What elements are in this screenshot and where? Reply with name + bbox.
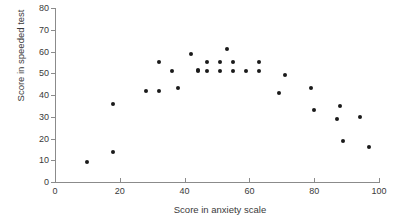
data-point (189, 52, 193, 56)
x-tick (314, 178, 315, 183)
y-tick (51, 117, 56, 118)
data-point (277, 91, 281, 95)
data-point (231, 69, 235, 73)
y-tick-label: 80 (39, 3, 49, 13)
data-point (312, 108, 316, 112)
y-tick-label: 40 (39, 90, 49, 100)
data-point (196, 69, 200, 73)
data-point (338, 104, 342, 108)
y-tick-label: 0 (44, 177, 49, 187)
data-point (231, 60, 235, 64)
y-tick-label: 70 (39, 25, 49, 35)
y-tick (51, 8, 56, 9)
data-point (205, 69, 209, 73)
x-tick-label: 60 (244, 186, 254, 196)
data-point (85, 160, 89, 164)
y-tick-label: 20 (39, 134, 49, 144)
data-point (335, 117, 339, 121)
y-tick (51, 52, 56, 53)
data-point (225, 47, 229, 51)
data-points-layer (0, 0, 400, 224)
data-point (309, 86, 313, 90)
y-tick-label: 60 (39, 47, 49, 57)
y-tick (51, 73, 56, 74)
y-tick-label: 10 (39, 155, 49, 165)
data-point (111, 150, 115, 154)
y-tick (51, 160, 56, 161)
y-axis-title: Score in speeded test (15, 0, 26, 141)
y-tick (51, 30, 56, 31)
x-tick (185, 178, 186, 183)
data-point (176, 86, 180, 90)
x-tick-label: 80 (309, 186, 319, 196)
scatter-chart: 020406080100 01020304050607080 Score in … (0, 0, 400, 224)
data-point (157, 60, 161, 64)
data-point (170, 69, 174, 73)
data-point (257, 60, 261, 64)
x-tick-label: 40 (180, 186, 190, 196)
y-tick (51, 95, 56, 96)
data-point (144, 89, 148, 93)
data-point (367, 145, 371, 149)
x-tick (379, 178, 380, 183)
data-point (341, 139, 345, 143)
x-tick (249, 178, 250, 183)
y-tick (51, 139, 56, 140)
x-tick (120, 178, 121, 183)
x-tick-label: 100 (371, 186, 386, 196)
data-point (244, 69, 248, 73)
y-tick-label: 50 (39, 68, 49, 78)
y-tick (51, 182, 56, 183)
x-tick-label: 0 (52, 186, 57, 196)
data-point (111, 102, 115, 106)
data-point (218, 60, 222, 64)
data-point (358, 115, 362, 119)
data-point (283, 73, 287, 77)
data-point (196, 68, 200, 72)
x-axis-title: Score in anxiety scale (0, 204, 400, 215)
x-axis-line (55, 182, 379, 183)
x-tick-label: 20 (115, 186, 125, 196)
data-point (157, 89, 161, 93)
data-point (218, 69, 222, 73)
y-tick-label: 30 (39, 112, 49, 122)
data-point (257, 69, 261, 73)
data-point (205, 60, 209, 64)
